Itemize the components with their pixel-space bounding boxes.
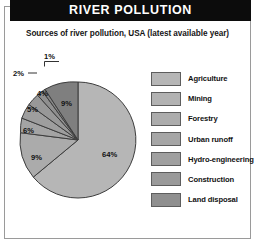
pie-label-4: 4% [37, 89, 48, 98]
chart-legend: Agriculture Mining Forestry Urban runoff… [151, 70, 255, 211]
legend-label-mining: Mining [188, 94, 212, 103]
legend-item-agriculture[interactable]: Agriculture [151, 70, 255, 87]
figure-subtitle: Sources of river pollution, USA (latest … [0, 29, 255, 38]
legend-label-land-disposal: Land disposal [188, 195, 238, 204]
legend-swatch-mining [151, 92, 181, 106]
legend-item-hydro-engineering[interactable]: Hydro-engineering [151, 151, 255, 168]
legend-swatch-forestry [151, 112, 181, 126]
pie-chart: 64% 9% 1% 2% 4% 5% 6% 9% [4, 44, 154, 204]
legend-swatch-agriculture [151, 72, 181, 86]
legend-item-mining[interactable]: Mining [151, 90, 255, 107]
legend-swatch-construction [151, 172, 181, 186]
river-pollution-figure: RIVER POLLUTION Sources of river polluti… [0, 0, 255, 245]
legend-item-urban-runoff[interactable]: Urban runoff [151, 131, 255, 148]
legend-label-agriculture: Agriculture [188, 74, 227, 83]
legend-swatch-urban-runoff [151, 132, 181, 146]
pie-label-64: 64% [102, 150, 117, 159]
chart-area: 64% 9% 1% 2% 4% 5% 6% 9% Agriculture Min… [4, 44, 251, 239]
legend-label-urban-runoff: Urban runoff [188, 135, 233, 144]
legend-item-forestry[interactable]: Forestry [151, 110, 255, 127]
legend-swatch-land-disposal [151, 193, 181, 207]
pie-label-2: 2% [13, 69, 24, 78]
pie-label-1: 1% [44, 52, 55, 61]
page-title: RIVER POLLUTION [69, 4, 192, 17]
pie-label-9-top: 9% [61, 99, 72, 108]
figure-title-bar: RIVER POLLUTION [10, 0, 251, 21]
pie-label-5: 5% [27, 105, 38, 114]
pie-slices [20, 82, 136, 198]
legend-item-construction[interactable]: Construction [151, 171, 255, 188]
legend-label-hydro-engineering: Hydro-engineering [188, 155, 254, 164]
legend-label-construction: Construction [188, 175, 234, 184]
pie-leader-lines [28, 62, 59, 74]
legend-swatch-hydro-engineering [151, 152, 181, 166]
pie-label-9-left: 9% [31, 153, 42, 162]
legend-label-forestry: Forestry [188, 114, 218, 123]
pie-label-6: 6% [23, 126, 34, 135]
legend-item-land-disposal[interactable]: Land disposal [151, 191, 255, 208]
